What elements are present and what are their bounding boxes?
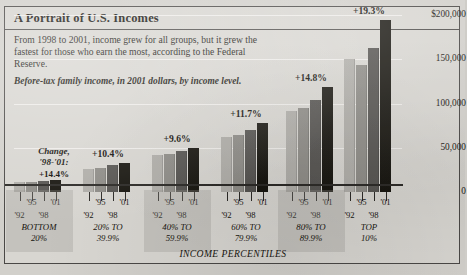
change-label: +10.4% (79, 148, 137, 159)
year-tick-label: '01 (375, 197, 397, 207)
group-caption-line: BOTTOM (2, 222, 76, 233)
group-caption: BOTTOM20% (2, 222, 76, 244)
group-caption-line: TOP (332, 222, 406, 233)
bar-group-bars (83, 163, 130, 192)
group-caption: 20% TO39.9% (71, 222, 145, 244)
y-axis-tick-label: 50,000 (440, 142, 466, 152)
change-label: +9.6% (148, 133, 206, 144)
group-caption-line: 60% TO (209, 222, 283, 233)
year-tick-label: '98 (240, 210, 262, 220)
change-label: +11.7% (217, 108, 275, 119)
change-legend-line1: Change, (23, 146, 85, 157)
bar-98 (245, 130, 256, 192)
bar-01 (380, 20, 391, 192)
change-legend-line2: '98-'01: (23, 157, 85, 168)
year-tick-label: '92 (78, 210, 100, 220)
bar-92 (152, 155, 163, 192)
bar-group-bars (221, 123, 268, 192)
x-axis-title: INCOME PERCENTILES (5, 248, 461, 259)
bar-group (221, 15, 271, 192)
y-axis-tick-label: 150,000 (436, 53, 466, 63)
bar-95 (298, 108, 309, 192)
bar-01 (257, 123, 268, 192)
bar-group (286, 15, 336, 192)
y-axis-tick-label: 100,000 (436, 98, 466, 108)
x-axis-line (5, 184, 403, 186)
bar-group-bars (286, 87, 333, 192)
y-axis-tick-label: 0 (461, 186, 466, 196)
figure-card: A Portrait of U.S. Incomes From 1998 to … (4, 6, 460, 264)
year-labels-lower: '92'98'92'98'92'98'92'98'92'98'92'98 (14, 210, 412, 222)
year-tick-label: '98 (102, 210, 124, 220)
bar-group (83, 15, 133, 192)
y-axis-tick-label: $200,000 (431, 9, 466, 19)
bar-01 (322, 87, 333, 192)
bar-95 (356, 65, 367, 192)
bar-group-bars (344, 20, 391, 192)
year-tick-label: '95 (90, 197, 112, 207)
year-tick-label: '92 (216, 210, 238, 220)
bar-98 (107, 165, 118, 192)
bar-95 (164, 154, 175, 192)
group-caption-line: 20% TO (71, 222, 145, 233)
year-tick-label: '95 (228, 197, 250, 207)
year-tick-label: '01 (252, 197, 274, 207)
change-legend-value: +14.4% (23, 169, 85, 180)
bar-01 (119, 163, 130, 192)
bar-92 (344, 59, 355, 192)
y-axis-labels: $200,000150,000100,00050,0000 (409, 15, 467, 205)
group-caption-line: 39.9% (71, 233, 145, 244)
group-caption-line: 20% (2, 233, 76, 244)
bar-98 (310, 100, 321, 192)
group-caption-line: 79.9% (209, 233, 283, 244)
year-tick-label: '98 (363, 210, 385, 220)
change-label: +14.8% (282, 72, 340, 83)
change-label: +19.3% (340, 5, 398, 16)
bar-92 (286, 111, 297, 192)
group-caption: 40% TO59.9% (140, 222, 214, 244)
bar-98 (368, 48, 379, 192)
year-tick-label: '95 (351, 197, 373, 207)
change-legend: Change, '98-'01: +14.4% (23, 146, 85, 180)
group-caption: 60% TO79.9% (209, 222, 283, 244)
group-caption-line: 59.9% (140, 233, 214, 244)
group-caption-line: 40% TO (140, 222, 214, 233)
year-labels-upper: '95'01'95'01'95'01'95'01'95'01'95'01 (14, 197, 412, 209)
group-caption-line: 10% (332, 233, 406, 244)
bar-group (152, 15, 202, 192)
year-tick-label: '01 (114, 197, 136, 207)
bar-95 (95, 168, 106, 192)
bar-group (344, 15, 394, 192)
group-caption: TOP10% (332, 222, 406, 244)
